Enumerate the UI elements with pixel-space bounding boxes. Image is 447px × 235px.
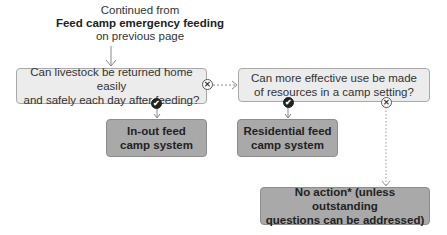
question-line-2: of resources in a camp setting? — [251, 85, 417, 99]
no-icon: ✕ — [202, 79, 213, 90]
result-residential-feed-camp: Residential feed camp system — [237, 119, 338, 157]
question-camp-resources: Can more effective use be made of resour… — [238, 68, 430, 102]
question-line-2: and safely each day after feeding? — [17, 93, 206, 107]
result-line-2: camp system — [120, 138, 193, 152]
no-icon: ✕ — [381, 97, 392, 108]
yes-check-icon: ✔ — [283, 97, 294, 108]
result-line-1: Residential feed — [243, 124, 331, 138]
question-line-1: Can more effective use be made — [251, 71, 417, 85]
question-livestock-return-home: Can livestock be returned home easily an… — [16, 68, 207, 104]
result-no-action: No action* (unless outstanding questions… — [260, 187, 430, 225]
yes-check-icon: ✔ — [151, 98, 162, 109]
result-line-1: In-out feed — [120, 124, 193, 138]
result-line-1: No action* (unless outstanding — [261, 185, 429, 213]
result-line-2: questions can be addressed) — [261, 213, 429, 227]
result-in-out-feed-camp: In-out feed camp system — [106, 119, 207, 157]
question-line-1: Can livestock be returned home easily — [17, 65, 206, 93]
result-line-2: camp system — [243, 138, 331, 152]
